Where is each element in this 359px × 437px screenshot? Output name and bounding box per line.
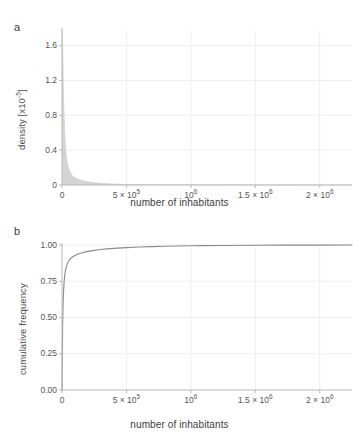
panel-b-y-tick: 1.00 xyxy=(23,240,57,250)
panel-a-x-tick: 1.5 × 106 xyxy=(225,190,285,200)
panel-b-x-axis-label: number of inhabitants xyxy=(0,419,359,430)
panel-b-x-tick: 0 xyxy=(32,395,92,405)
panel-b: b cumulative frequency number of inhabit… xyxy=(0,215,359,437)
panel-b-x-tick: 1.5 × 106 xyxy=(225,395,285,405)
panel-b-y-tick: 0.25 xyxy=(23,348,57,358)
panel-b-y-tick: 0.00 xyxy=(23,385,57,395)
panel-b-x-tick: 2 × 106 xyxy=(290,395,350,405)
panel-a-x-tick: 0 xyxy=(32,190,92,200)
figure-container: a density [x10-5] number of inhabitants … xyxy=(0,0,359,437)
panel-a-x-tick: 2 × 106 xyxy=(290,190,350,200)
panel-a: a density [x10-5] number of inhabitants … xyxy=(0,0,359,218)
panel-a-y-tick: 1.6 xyxy=(23,40,57,50)
panel-a-x-tick: 106 xyxy=(161,190,221,200)
panel-a-x-tick: 5 × 105 xyxy=(96,190,156,200)
panel-a-y-tick: 0 xyxy=(23,180,57,190)
panel-a-y-tick: 0.8 xyxy=(23,110,57,120)
panel-a-y-tick: 1.2 xyxy=(23,75,57,85)
panel-a-y-tick: 0.4 xyxy=(23,145,57,155)
panel-b-x-tick: 5 × 105 xyxy=(96,395,156,405)
panel-b-y-tick: 0.50 xyxy=(23,312,57,322)
panel-b-x-tick: 106 xyxy=(161,395,221,405)
panel-b-y-tick: 0.75 xyxy=(23,276,57,286)
